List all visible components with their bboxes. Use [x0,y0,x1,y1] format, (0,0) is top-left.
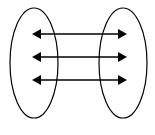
right-set-ellipse [99,8,147,118]
set-mapping-diagram [0,0,155,135]
left-set-ellipse [10,8,58,118]
arrowhead-left-icon [32,29,41,39]
arrowhead-left-icon [32,75,41,85]
double-arrow-2 [32,52,127,62]
arrowhead-right-icon [118,29,127,39]
arrowhead-left-icon [32,52,41,62]
arrowhead-right-icon [118,75,127,85]
arrowhead-right-icon [118,52,127,62]
double-arrow-3 [32,75,127,85]
double-arrow-1 [32,29,127,39]
